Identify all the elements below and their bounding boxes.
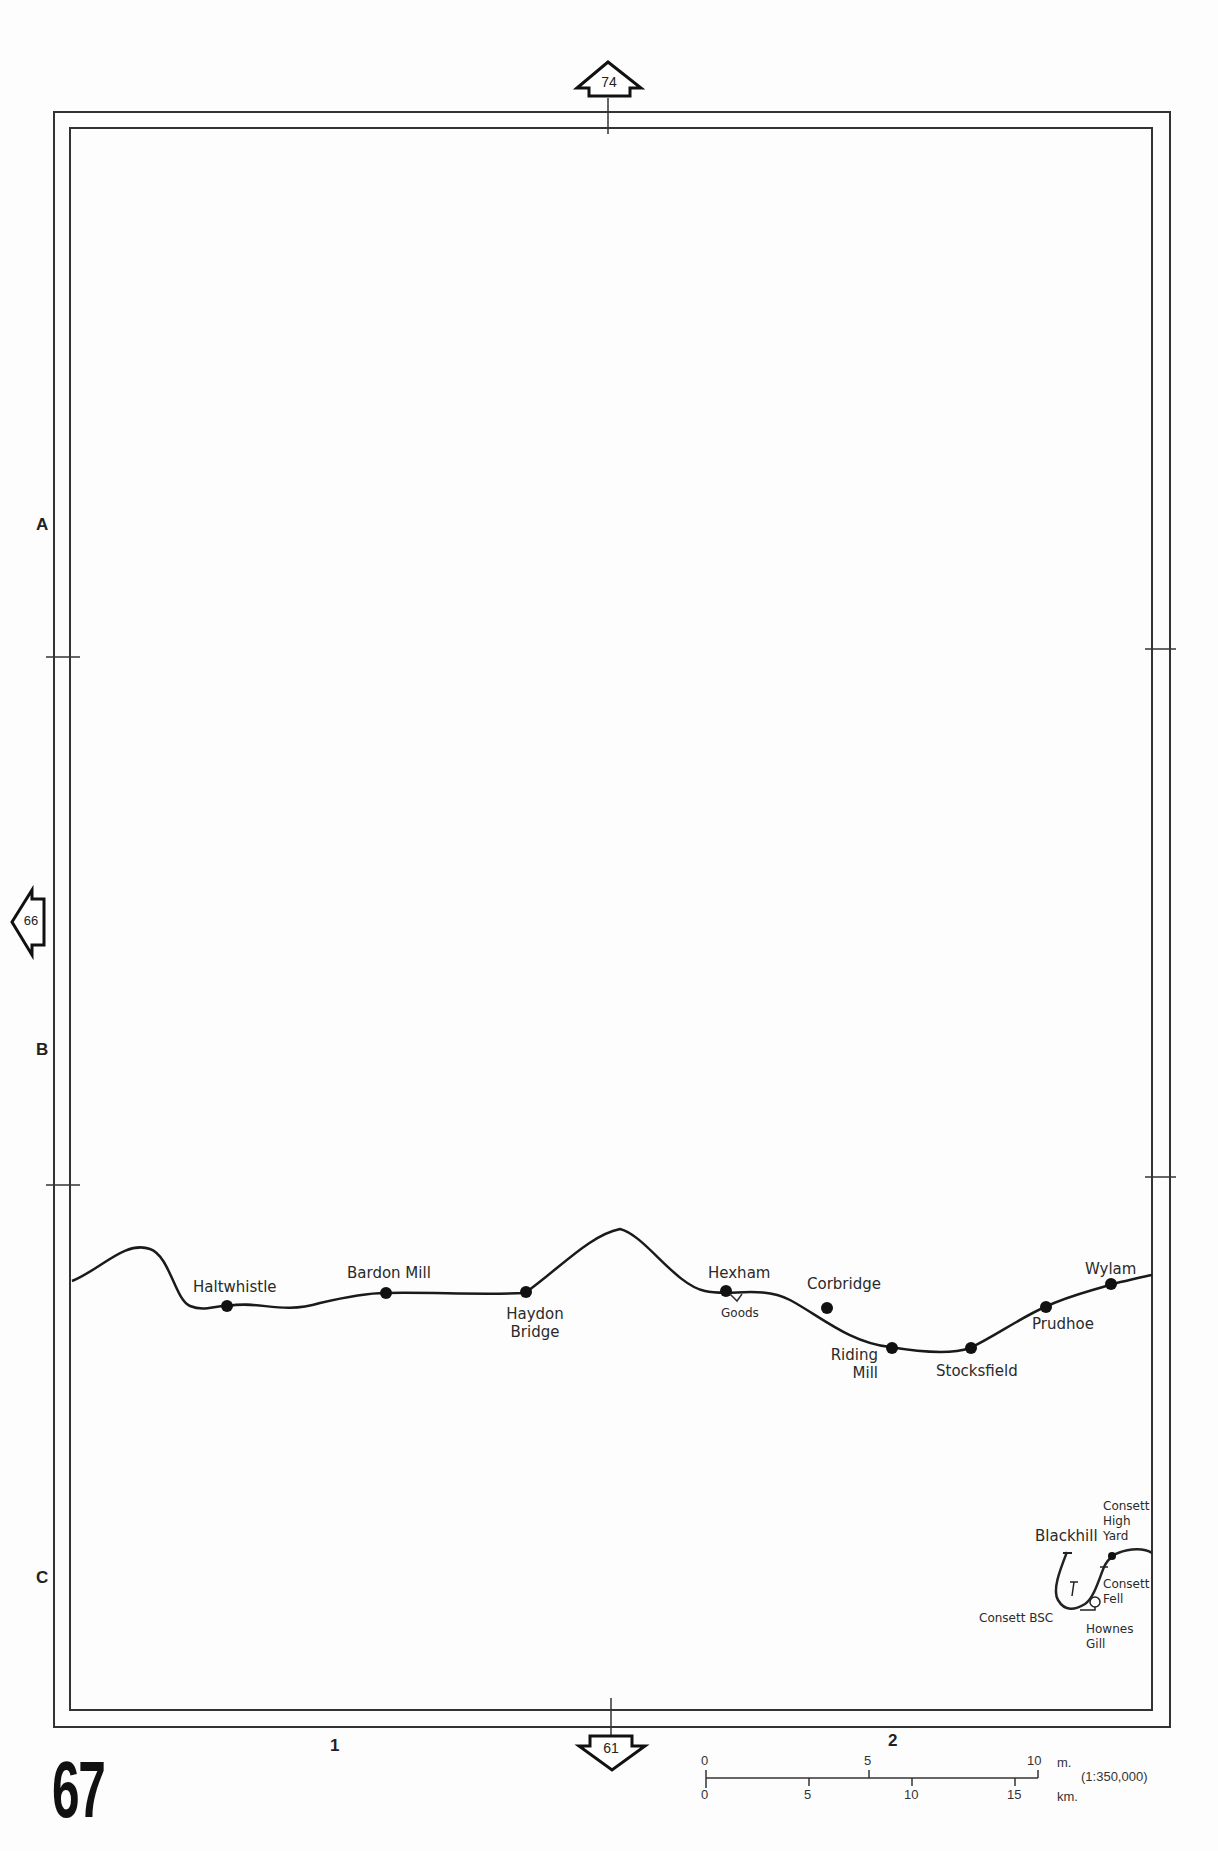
station-dot-consett-high-yard[interactable] [1108,1552,1116,1560]
scale-km-0: 0 [701,1787,708,1802]
label-riding-mill-line1: Riding [826,1346,878,1364]
station-dot-corbridge[interactable] [821,1302,833,1314]
grid-row-c: C [36,1568,48,1588]
scale-miles-unit: m. [1057,1755,1071,1770]
scale-km-10: 10 [904,1787,918,1802]
label-hownes-gill: Hownes Gill [1086,1622,1133,1652]
label-goods: Goods [721,1306,759,1321]
station-dot-riding-mill[interactable] [886,1342,898,1354]
station-dot-haydon-bridge[interactable] [520,1286,532,1298]
grid-col-1: 1 [330,1736,339,1756]
label-bardon-mill: Bardon Mill [347,1264,431,1282]
north-page-number[interactable]: 74 [594,74,624,90]
page-number: 67 [52,1750,105,1830]
label-riding-mill: Riding Mill [826,1346,878,1382]
label-blackhill: Blackhill [1035,1527,1098,1545]
scale-miles-10: 10 [1027,1753,1041,1768]
scale-miles-5: 5 [864,1753,871,1768]
label-hownes-gill-line1: Hownes [1086,1622,1133,1637]
label-consett-fell-line1: Consett [1103,1577,1149,1592]
west-page-number[interactable]: 66 [16,913,46,928]
label-hownes-gill-line2: Gill [1086,1637,1133,1652]
station-dot-prudhoe[interactable] [1040,1301,1052,1313]
label-wylam: Wylam [1085,1260,1136,1278]
south-page-number[interactable]: 61 [596,1740,626,1756]
map-canvas [0,0,1218,1851]
station-dot-haltwhistle[interactable] [221,1300,233,1312]
label-haydon-bridge-line1: Haydon [505,1305,565,1323]
station-circle-consett-fell[interactable] [1090,1597,1100,1607]
label-consett-high-yard-line3: Yard [1103,1529,1149,1544]
label-corbridge: Corbridge [807,1275,881,1293]
label-riding-mill-line2: Mill [826,1364,878,1382]
label-hexham: Hexham [708,1264,770,1282]
grid-row-a: A [36,515,48,535]
grid-row-b: B [36,1040,48,1060]
scale-km-5: 5 [804,1787,811,1802]
scale-ratio: (1:350,000) [1081,1769,1148,1784]
label-consett-high-yard-line1: Consett [1103,1499,1149,1514]
label-consett-high-yard: Consett High Yard [1103,1499,1149,1544]
scale-km-unit: km. [1057,1789,1078,1804]
scale-miles-0: 0 [701,1753,708,1768]
goods-siding [730,1294,742,1301]
label-consett-high-yard-line2: High [1103,1514,1149,1529]
label-haydon-bridge-line2: Bridge [505,1323,565,1341]
label-consett-bsc: Consett BSC [979,1611,1053,1626]
station-dot-wylam[interactable] [1105,1278,1117,1290]
scale-km-15: 15 [1007,1787,1021,1802]
label-consett-fell-line2: Fell [1103,1592,1149,1607]
label-haydon-bridge: Haydon Bridge [505,1305,565,1341]
bsc-siding [1070,1582,1078,1596]
label-prudhoe: Prudhoe [1032,1315,1094,1333]
station-dot-bardon-mill[interactable] [380,1287,392,1299]
label-stocksfield: Stocksfield [936,1362,1018,1380]
label-consett-fell: Consett Fell [1103,1577,1149,1607]
label-haltwhistle: Haltwhistle [193,1278,277,1296]
inner-frame [70,128,1152,1710]
station-dot-stocksfield[interactable] [965,1342,977,1354]
outer-frame [54,112,1170,1727]
grid-col-2: 2 [888,1731,897,1751]
